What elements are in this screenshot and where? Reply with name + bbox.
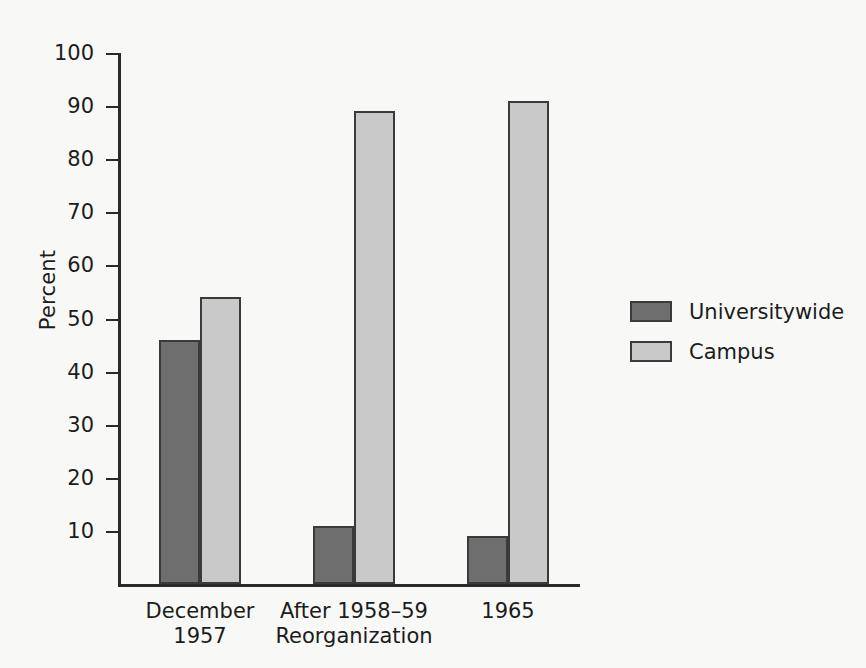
y-axis-tick-label: 10 [67,519,94,543]
bar-universitywide-3 [467,536,508,584]
y-axis-tick: 100 [106,53,118,55]
bar-campus-3 [508,101,549,584]
y-axis-tick-label: 60 [67,253,94,277]
x-axis-category-label: After 1958–59 Reorganization [275,599,432,649]
y-axis-tick-label: 90 [67,94,94,118]
y-axis-tick-label: 80 [67,147,94,171]
legend-swatch-campus [630,341,672,362]
y-axis-tick-label: 70 [67,200,94,224]
y-axis-tick: 60 [106,265,118,267]
legend-item: Universitywide [630,296,860,327]
bar-universitywide-1 [159,340,200,584]
y-axis-spine [118,53,121,584]
bar-chart-figure: Percent 100908070605040302010 December 1… [0,0,866,668]
legend-label: Universitywide [689,300,844,324]
y-axis-tick: 70 [106,212,118,214]
bar-campus-2 [354,111,395,584]
y-axis-tick: 40 [106,372,118,374]
chart-legend: UniversitywideCampus [630,296,860,376]
y-axis-tick: 80 [106,159,118,161]
x-axis-category-label: 1965 [481,599,534,624]
bar-universitywide-2 [313,526,354,584]
bar-campus-1 [200,297,241,584]
y-axis-tick: 20 [106,478,118,480]
y-axis-tick-label: 30 [67,413,94,437]
plot-area: 100908070605040302010 December 1957After… [118,53,580,584]
x-axis-spine [118,584,580,587]
y-axis-tick-label: 20 [67,466,94,490]
y-axis-tick: 30 [106,425,118,427]
y-axis-tick: 90 [106,106,118,108]
y-axis-tick-label: 50 [67,307,94,331]
y-axis-tick: 50 [106,319,118,321]
y-axis-tick: 10 [106,531,118,533]
y-axis-title: Percent [36,230,60,350]
legend-swatch-universitywide [630,301,672,322]
y-axis-tick-label: 40 [67,360,94,384]
legend-label: Campus [689,340,775,364]
legend-item: Campus [630,336,860,367]
x-axis-category-label: December 1957 [146,599,255,649]
y-axis-tick-label: 100 [54,41,94,65]
